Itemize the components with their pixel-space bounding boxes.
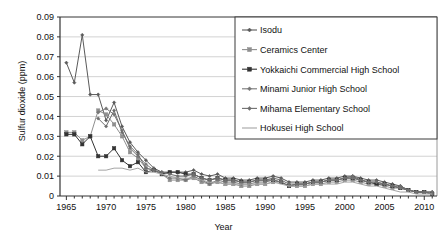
legend-label-4: Mihama Elementary School: [260, 104, 370, 114]
legend-label-0: Isodu: [260, 25, 282, 35]
y-tick-label: 0: [49, 191, 54, 201]
series-marker: [104, 119, 107, 122]
legend-marker-2: [248, 67, 252, 71]
x-tick-label: 2000: [335, 202, 355, 212]
series-marker: [208, 174, 211, 177]
series-marker: [65, 61, 68, 64]
series-marker: [89, 135, 92, 138]
series-marker: [112, 101, 115, 104]
legend-label-2: Yokkaichi Commercial High School: [260, 65, 399, 75]
y-tick-label: 0.02: [36, 152, 54, 162]
y-tick-label: 0.05: [36, 92, 54, 102]
series-marker: [120, 159, 123, 162]
series-marker: [73, 133, 76, 136]
y-tick-label: 0.06: [36, 72, 54, 82]
series-marker: [112, 123, 115, 126]
x-tick-label: 1990: [255, 202, 275, 212]
series-marker: [128, 164, 131, 167]
series-marker: [216, 172, 219, 175]
series-marker: [136, 160, 139, 163]
y-axis-title: Sulfur dioxide (ppm): [17, 41, 27, 161]
x-tick-label: 1985: [215, 202, 235, 212]
series-marker: [81, 33, 84, 36]
y-tick-label: 0.04: [36, 112, 54, 122]
y-tick-label: 0.03: [36, 132, 54, 142]
x-tick-label: 1965: [56, 202, 76, 212]
series-marker: [65, 133, 68, 136]
series-marker: [96, 93, 99, 96]
x-tick-label: 1980: [176, 202, 196, 212]
chart-plot: 00.010.020.030.040.050.060.070.080.09196…: [0, 0, 447, 241]
series-marker: [128, 151, 131, 154]
y-tick-label: 0.07: [36, 52, 54, 62]
series-marker: [73, 81, 76, 84]
x-tick-label: 1970: [96, 202, 116, 212]
legend-label-1: Ceramics Center: [260, 45, 328, 55]
series-marker: [81, 143, 84, 146]
y-tick-label: 0.09: [36, 12, 54, 22]
series-marker: [96, 155, 99, 158]
series-marker: [112, 147, 115, 150]
series-marker: [192, 168, 195, 171]
series-marker: [200, 172, 203, 175]
x-axis-title: Year: [0, 222, 447, 232]
x-tick-label: 2010: [414, 202, 434, 212]
series-marker: [104, 113, 107, 116]
series-marker: [112, 109, 115, 112]
legend-label-5: Hokusei High School: [260, 123, 344, 133]
x-tick-label: 1975: [136, 202, 156, 212]
legend-label-3: Minami Junior High School: [260, 84, 367, 94]
series-marker: [81, 139, 84, 142]
chart-container: 00.010.020.030.040.050.060.070.080.09196…: [0, 0, 447, 241]
y-tick-label: 0.01: [36, 171, 54, 181]
series-marker: [104, 155, 107, 158]
x-tick-label: 2005: [374, 202, 394, 212]
x-tick-label: 1995: [295, 202, 315, 212]
y-tick-label: 0.08: [36, 32, 54, 42]
series-marker: [176, 170, 179, 173]
series-marker: [89, 93, 92, 96]
legend-marker-1: [248, 48, 252, 52]
